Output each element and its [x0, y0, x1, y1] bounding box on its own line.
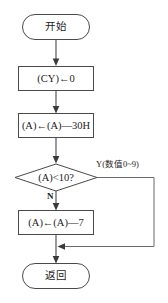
arrowhead-into-sub30h [53, 106, 60, 114]
process-sub-30h-label: (A)←(A)—30H [22, 120, 90, 131]
return-terminator-label: 返回 [45, 271, 68, 282]
process-clear-cy-label: (CY)←0 [37, 73, 74, 84]
flowchart-graphics [0, 0, 168, 303]
arrowhead-into-return [53, 256, 60, 264]
start-terminator-label: 开始 [45, 22, 68, 33]
arrowhead-into-sub7 [53, 203, 60, 211]
branch-label-yes: Y(数值0~9) [96, 160, 139, 169]
arrowhead-into-clearcy [53, 59, 60, 67]
process-sub-7-label: (A)←(A)—7 [28, 217, 83, 228]
arrowhead-into-decision [53, 156, 60, 164]
branch-label-no: N [47, 192, 54, 201]
arrowhead-yes-merge [58, 243, 66, 250]
flowchart-canvas: 开始 (CY)←0 (A)←(A)—30H (A)<10? (A)←(A)—7 … [0, 0, 168, 303]
decision-compare-label: (A)<10? [38, 172, 74, 183]
